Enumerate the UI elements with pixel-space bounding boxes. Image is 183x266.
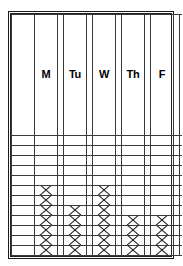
x-mark-icon <box>122 236 144 245</box>
row-label-cell <box>12 185 35 195</box>
trailing-cell <box>180 145 183 155</box>
chart-frame-inner: MTuWThF <box>10 13 172 257</box>
x-mark-icon <box>64 246 86 255</box>
column-header-tue: Tu <box>64 15 87 136</box>
x-mark-icon <box>93 186 115 195</box>
tally-cell-mon <box>35 215 58 225</box>
row-label-cell <box>12 205 35 215</box>
tally-cell-wed <box>93 225 116 235</box>
tally-cell-wed <box>93 215 116 225</box>
tally-cell-wed <box>93 145 116 155</box>
tally-cell-mon <box>35 235 58 245</box>
tally-cell-wed <box>93 135 116 145</box>
x-mark-icon <box>93 216 115 225</box>
trailing-cell <box>180 155 183 165</box>
tally-cell-tue <box>64 205 87 215</box>
tally-cell-mon <box>35 195 58 205</box>
tally-cell-tue <box>64 235 87 245</box>
column-header-mon: M <box>35 15 58 136</box>
x-mark-icon <box>35 206 57 215</box>
x-mark-icon <box>93 246 115 255</box>
column-header-fri: F <box>151 15 174 136</box>
x-mark-icon <box>64 226 86 235</box>
x-mark-icon <box>151 216 173 225</box>
row-label-cell <box>12 165 35 175</box>
trailing-cell <box>180 185 183 195</box>
trailing-cell <box>180 245 183 255</box>
tally-cell-thu <box>122 235 145 245</box>
tally-grid-row <box>12 175 183 185</box>
row-label-cell <box>12 245 35 255</box>
x-mark-icon <box>151 236 173 245</box>
row-label-cell <box>12 15 35 136</box>
tally-cell-thu <box>122 185 145 195</box>
row-label-cell <box>12 145 35 155</box>
tally-cell-fri <box>151 225 174 235</box>
x-mark-icon <box>122 246 144 255</box>
row-label-cell <box>12 225 35 235</box>
tally-cell-tue <box>64 175 87 185</box>
tally-cell-tue <box>64 165 87 175</box>
x-mark-icon <box>93 206 115 215</box>
tally-cell-thu <box>122 195 145 205</box>
trailing-cell <box>180 175 183 185</box>
tally-grid-row: MTuWThF <box>12 15 183 136</box>
tally-cell-wed <box>93 195 116 205</box>
row-label-cell <box>12 175 35 185</box>
tally-grid-row <box>12 235 183 245</box>
tally-cell-fri <box>151 145 174 155</box>
tally-cell-thu <box>122 175 145 185</box>
tally-cell-fri <box>151 155 174 165</box>
tally-cell-thu <box>122 155 145 165</box>
tally-cell-mon <box>35 145 58 155</box>
x-mark-icon <box>151 226 173 235</box>
tally-cell-tue <box>64 225 87 235</box>
x-mark-icon <box>64 216 86 225</box>
tally-cell-mon <box>35 175 58 185</box>
tally-cell-mon <box>35 155 58 165</box>
x-mark-icon <box>93 236 115 245</box>
tally-cell-tue <box>64 195 87 205</box>
tally-cell-tue <box>64 185 87 195</box>
row-label-cell <box>12 195 35 205</box>
tally-chart: MTuWThF <box>0 0 182 266</box>
x-mark-icon <box>35 186 57 195</box>
row-label-cell <box>12 215 35 225</box>
tally-grid-row <box>12 185 183 195</box>
x-mark-icon <box>35 216 57 225</box>
x-mark-icon <box>64 236 86 245</box>
tally-cell-mon <box>35 135 58 145</box>
tally-cell-fri <box>151 135 174 145</box>
tally-cell-fri <box>151 195 174 205</box>
tally-cell-tue <box>64 155 87 165</box>
tally-cell-tue <box>64 135 87 145</box>
tally-grid-body: MTuWThF <box>12 15 183 256</box>
trailing-cell <box>180 165 183 175</box>
tally-cell-mon <box>35 245 58 255</box>
trailing-cell <box>180 235 183 245</box>
tally-cell-thu <box>122 205 145 215</box>
tally-grid-row <box>12 135 183 145</box>
tally-cell-fri <box>151 185 174 195</box>
tally-cell-thu <box>122 215 145 225</box>
x-mark-icon <box>35 236 57 245</box>
tally-cell-fri <box>151 215 174 225</box>
tally-cell-wed <box>93 155 116 165</box>
x-mark-icon <box>151 246 173 255</box>
trailing-cell <box>180 135 183 145</box>
chart-frame: MTuWThF <box>8 11 174 259</box>
x-mark-icon <box>122 216 144 225</box>
trailing-cell <box>180 215 183 225</box>
tally-cell-wed <box>93 205 116 215</box>
tally-grid-row <box>12 155 183 165</box>
tally-cell-thu <box>122 245 145 255</box>
tally-grid-row <box>12 245 183 255</box>
trailing-cell <box>180 205 183 215</box>
row-label-cell <box>12 135 35 145</box>
tally-cell-mon <box>35 225 58 235</box>
column-header-thu: Th <box>122 15 145 136</box>
x-mark-icon <box>64 206 86 215</box>
tally-cell-wed <box>93 235 116 245</box>
tally-grid-row <box>12 205 183 215</box>
tally-grid-row <box>12 165 183 175</box>
